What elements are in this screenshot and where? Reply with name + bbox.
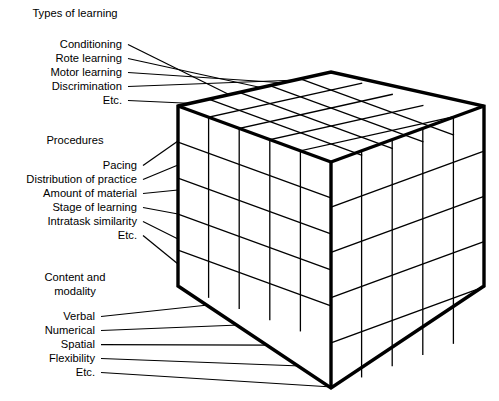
leader-line-content-and-modality-0	[101, 305, 208, 317]
cube-layer	[178, 72, 484, 388]
group-heading-types-of-learning: Types of learning	[32, 7, 117, 19]
label-group-content-and-modality: Content andmodalityVerbalNumericalSpatia…	[45, 271, 106, 378]
facet-label-procedures-0: Pacing	[103, 159, 137, 171]
group-heading-content-and-modality-line2: modality	[54, 285, 96, 297]
label-group-procedures: ProceduresPacingDistribution of practice…	[26, 134, 137, 241]
leader-line-procedures-1	[143, 165, 178, 180]
cube-diagram: Types of learningConditioningRote learni…	[0, 0, 499, 401]
leader-line-procedures-0	[143, 141, 178, 166]
leader-line-content-and-modality-2	[101, 345, 270, 346]
leader-line-content-and-modality-1	[101, 325, 239, 331]
leader-line-content-and-modality-3	[101, 359, 301, 367]
leader-line-types-of-learning-0	[128, 45, 236, 99]
facet-label-types-of-learning-4: Etc.	[103, 94, 122, 106]
facet-label-types-of-learning-0: Conditioning	[60, 38, 122, 50]
leader-line-procedures-5	[143, 236, 178, 265]
leader-group-procedures	[143, 141, 178, 264]
facet-label-content-and-modality-2: Spatial	[61, 338, 95, 350]
facet-label-content-and-modality-4: Etc.	[76, 366, 95, 378]
facet-label-types-of-learning-3: Discrimination	[52, 80, 122, 92]
leader-line-procedures-2	[143, 190, 178, 194]
label-group-types-of-learning: Types of learningConditioningRote learni…	[32, 7, 122, 106]
facet-label-content-and-modality-0: Verbal	[63, 310, 95, 322]
labels-layer: Types of learningConditioningRote learni…	[26, 7, 137, 378]
facet-label-procedures-4: Intratask similarity	[47, 215, 137, 227]
figure-canvas: Types of learningConditioningRote learni…	[0, 0, 499, 401]
group-heading-content-and-modality-line1: Content and	[45, 271, 106, 283]
facet-label-procedures-2: Amount of material	[43, 187, 137, 199]
leader-line-procedures-4	[143, 222, 178, 240]
facet-label-procedures-1: Distribution of practice	[26, 173, 137, 185]
group-heading-procedures: Procedures	[46, 134, 104, 146]
facet-label-content-and-modality-3: Flexibility	[49, 352, 95, 364]
facet-label-procedures-5: Etc.	[118, 229, 137, 241]
leader-line-types-of-learning-2	[128, 73, 301, 85]
leader-line-content-and-modality-4	[101, 373, 332, 388]
facet-label-content-and-modality-1: Numerical	[45, 324, 95, 336]
facet-label-procedures-3: Stage of learning	[52, 201, 137, 213]
leader-line-procedures-3	[143, 208, 178, 215]
facet-label-types-of-learning-1: Rote learning	[55, 52, 122, 64]
facet-label-types-of-learning-2: Motor learning	[50, 66, 122, 78]
